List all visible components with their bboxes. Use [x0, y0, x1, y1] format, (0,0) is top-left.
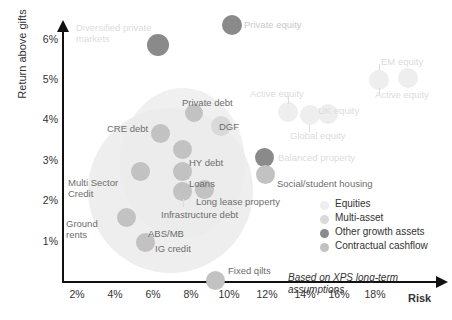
legend-label-multi-asset: Multi-asset [335, 212, 383, 223]
label-fixed-gilts: Fixed qilts [228, 265, 271, 276]
label-social-student-housing: Social/student housing [277, 178, 373, 189]
x-tick-2: 2% [62, 288, 92, 300]
scatter-chart: Return above gifts Risk 6% 5% 4% 3% 2% 1… [0, 0, 452, 320]
legend-swatch-multi-asset-icon [320, 215, 329, 224]
data-point-private-equity[interactable] [222, 15, 242, 35]
x-tick-6: 6% [138, 288, 168, 300]
y-tick-label: 6% [24, 33, 58, 45]
y-tick-label: 5% [24, 73, 58, 85]
label-balanced-property: Balanced property [278, 152, 355, 163]
label-private-equity: Private equity [244, 19, 302, 30]
label-diversified-private-markets: Diversified private markets [76, 22, 152, 44]
y-tick-label: 3% [24, 154, 58, 166]
label-cre-debt: CRE debt [107, 123, 148, 134]
label-loans: Loans [189, 178, 215, 189]
y-tick-label: 1% [24, 235, 58, 247]
data-point-active-equity-right[interactable] [369, 70, 389, 90]
label-private-debt: Private debt [182, 97, 233, 108]
y-axis-arrow-icon [57, 20, 69, 32]
data-point-fixed-gilts[interactable] [206, 271, 225, 290]
label-dgf: DGF [219, 121, 239, 132]
x-tick-10: 10% [214, 288, 244, 300]
label-global-equity: Global equity [290, 130, 345, 141]
leader-line-infrastructure-debt [183, 199, 184, 207]
y-tick-label: 2% [24, 194, 58, 206]
legend-label-equities: Equities [335, 198, 371, 209]
chart-annotation-line2: assumptions [288, 284, 438, 296]
label-uk-equity: UK equity [318, 105, 359, 116]
label-active-equity-left: Active equity [250, 88, 304, 99]
label-ig-credit: IG credit [155, 243, 191, 254]
chart-annotation-line1: Based on XPS long-term [288, 272, 438, 284]
x-tick-4: 4% [100, 288, 130, 300]
label-active-equity-right: Active equity [375, 89, 429, 100]
label-long-lease-property: Long lease property [196, 196, 280, 207]
data-point-global-equity[interactable] [300, 105, 320, 125]
legend-swatch-equities-icon [320, 201, 329, 210]
data-point-em-equity[interactable] [398, 68, 418, 88]
data-point-multi-sector-credit[interactable] [131, 162, 150, 181]
y-axis-title: Return above gifts [16, 0, 28, 114]
legend-label-other-growth-assets: Other growth assets [335, 226, 424, 237]
x-tick-12: 12% [252, 288, 282, 300]
legend-swatch-other-growth-assets-icon [320, 229, 329, 238]
data-point-active-equity-left[interactable] [278, 102, 298, 122]
label-hy-debt: HY debt [189, 157, 223, 168]
label-abs-mb: ABS/MB [148, 228, 184, 239]
data-point-ground-rents[interactable] [117, 208, 136, 227]
label-ground-rents: Ground rents [66, 218, 98, 240]
leader-line-em-equity [379, 64, 380, 70]
data-point-social-student-housing[interactable] [256, 165, 275, 184]
legend-label-contractual-cashflow: Contractual cashflow [335, 240, 428, 251]
data-point-cre-debt[interactable] [151, 124, 170, 143]
x-tick-8: 8% [176, 288, 206, 300]
chart-annotation: Based on XPS long-term assumptions [288, 272, 438, 295]
legend-swatch-contractual-cashflow-icon [320, 243, 329, 252]
y-tick-label: 4% [24, 113, 58, 125]
label-infrastructure-debt: Infrastructure debt [161, 209, 238, 220]
label-multi-sector-credit: Multi Sector Credit [68, 177, 118, 199]
label-em-equity: EM equity [381, 56, 423, 67]
y-axis-line [62, 30, 64, 283]
